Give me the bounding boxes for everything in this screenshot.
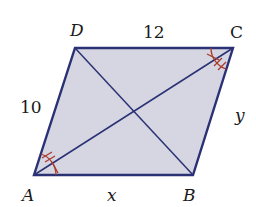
side-label-ad: 10	[20, 97, 42, 117]
vertex-label-a: A	[20, 185, 34, 205]
parallelogram-diagram: D C A B 12 10 x y	[0, 0, 256, 207]
vertex-label-c: C	[230, 22, 243, 42]
side-label-ab: x	[107, 185, 117, 205]
side-label-dc: 12	[143, 22, 165, 42]
vertex-label-d: D	[69, 20, 84, 40]
vertex-label-b: B	[182, 185, 196, 205]
side-label-bc: y	[234, 105, 245, 125]
